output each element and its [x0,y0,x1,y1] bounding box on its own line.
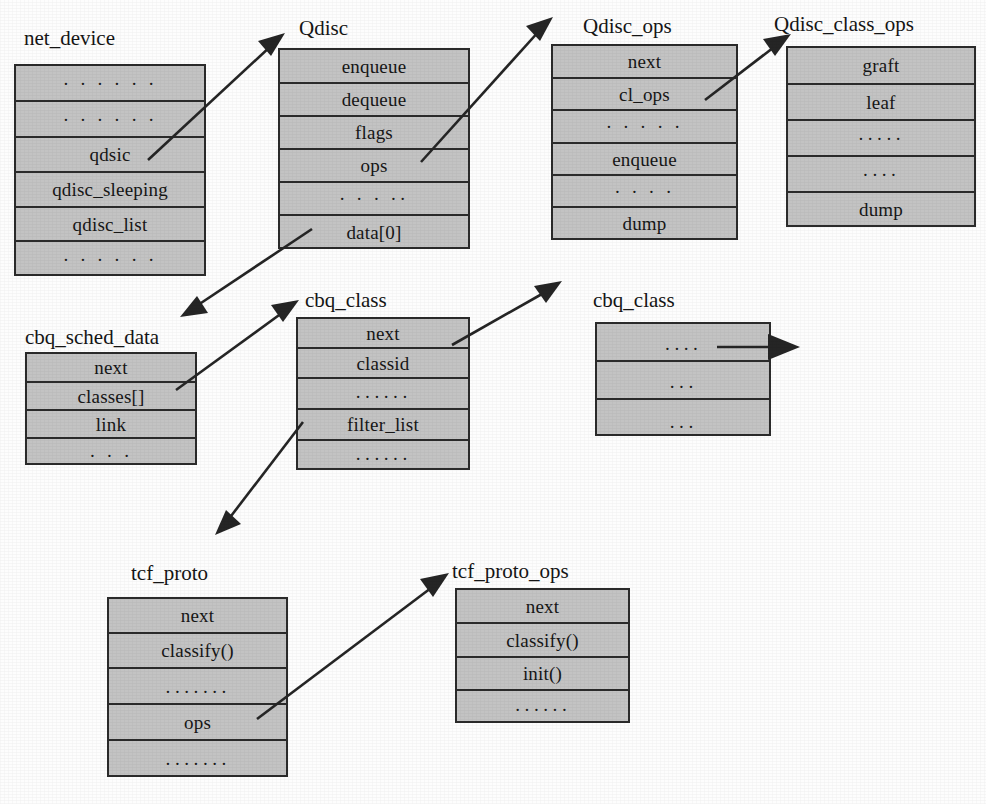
field-row: ···· [788,157,974,193]
struct-title-net-device: net_device [24,26,115,51]
field-row: ······ [457,691,628,721]
field-row-ops: ops [109,705,286,741]
field-row-next: next [553,46,736,79]
struct-title-qdisc-ops: Qdisc_ops [583,14,672,39]
struct-box-qdisc-ops: next cl_ops · · · · · enqueue · · · · du… [551,44,738,240]
field-row: · · · · · [553,111,736,144]
field-row: ····· [788,121,974,157]
struct-title-tcf-proto: tcf_proto [131,561,208,586]
struct-title-qdisc: Qdisc [299,16,348,41]
struct-title-cbq-class-left: cbq_class [305,288,387,313]
struct-title-cbq-sched-data: cbq_sched_data [25,325,159,350]
struct-title-tcf-proto-ops: tcf_proto_ops [452,559,569,584]
field-row: · · · [27,439,195,467]
struct-box-cbq-sched-data: next classes[] link · · · [25,352,197,465]
struct-title-cbq-class-right: cbq_class [593,288,675,313]
field-row-ops: ops [280,150,468,183]
field-row: · · · · · · [16,242,204,276]
field-row-init: init() [457,658,628,691]
field-row-data0: data[0] [280,216,468,248]
field-row-link: link [27,411,195,439]
field-row-next: next [27,354,195,383]
field-row-qdsic: qdsic [16,138,204,173]
field-row: ··· [597,400,769,438]
field-row: ······· [109,741,286,775]
field-row: · · · · · · [16,66,204,102]
struct-box-cbq-class-right: ···· ··· ··· [595,322,771,436]
field-row-classes: classes[] [27,383,195,411]
struct-box-cbq-class-left: next classid ······ filter_list ······ [296,317,470,470]
field-row-qdisc-sleeping: qdisc_sleeping [16,173,204,208]
field-row-next: next [109,599,286,634]
field-row: · · · · [553,176,736,208]
field-row-qdisc-list: qdisc_list [16,208,204,242]
field-row-dequeue: dequeue [280,84,468,117]
struct-box-net-device: · · · · · · · · · · · · qdsic qdisc_slee… [14,64,206,276]
field-row: ······ [298,379,468,410]
field-row-classid: classid [298,349,468,379]
struct-title-qdisc-class-ops: Qdisc_class_ops [774,12,914,37]
struct-box-qdisc: enqueue dequeue flags ops · · · ·· data[… [278,48,470,249]
field-row: · · · ·· [280,183,468,216]
struct-box-tcf-proto-ops: next classify() init() ······ [455,588,630,723]
field-row-next: next [298,319,468,349]
field-row: ······· [109,669,286,705]
field-row-next: next [457,590,628,624]
diagram-canvas: net_device · · · · · · · · · · · · qdsic… [0,0,986,804]
arrow-filterlist-to-tcfproto [215,422,303,535]
field-row: ······ [298,441,468,470]
field-row-flags: flags [280,117,468,150]
field-row-enqueue: enqueue [280,50,468,84]
field-row-classify: classify() [109,634,286,669]
field-row-cl-ops: cl_ops [553,79,736,111]
field-row-classify: classify() [457,624,628,658]
field-row-enqueue: enqueue [553,144,736,176]
struct-box-tcf-proto: next classify() ······· ops ······· [107,597,288,777]
field-row: ···· [597,324,769,362]
field-row-dump: dump [553,208,736,238]
field-row-leaf: leaf [788,85,974,121]
field-row-filter-list: filter_list [298,410,468,441]
field-row-graft: graft [788,48,974,85]
struct-box-qdisc-class-ops: graft leaf ····· ···· dump [786,46,976,227]
field-row: ··· [597,362,769,400]
field-row: · · · · · · [16,102,204,138]
field-row-dump: dump [788,193,974,225]
